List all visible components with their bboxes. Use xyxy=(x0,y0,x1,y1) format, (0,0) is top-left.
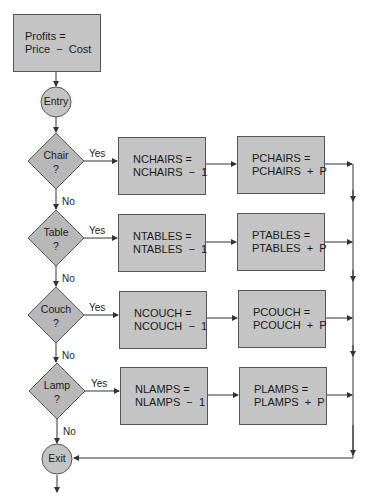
nchairs-line1: NCHAIRS = xyxy=(133,153,205,166)
pcouch-box: PCOUCH = PCOUCH + P xyxy=(238,290,326,348)
nlamps-line2: NLAMPS − 1 xyxy=(135,396,207,409)
plamps-line1: PLAMPS = xyxy=(254,383,326,396)
decision-couch-label: Couch xyxy=(28,302,84,316)
decision-couch-mark: ? xyxy=(28,316,84,330)
no-label-couch: No xyxy=(62,350,75,361)
ntables-line2: NTABLES − 1 xyxy=(133,243,205,256)
no-label-lamp: No xyxy=(63,426,76,437)
profits-line2: Price − Cost xyxy=(25,43,100,56)
pcouch-line2: PCOUCH + P xyxy=(253,319,325,332)
ptables-box: PTABLES = PTABLES + P xyxy=(237,213,325,271)
yes-label-couch: Yes xyxy=(89,302,105,313)
decision-table-label: Table xyxy=(28,225,84,239)
decision-chair-mark: ? xyxy=(28,162,84,176)
decision-lamp-mark: ? xyxy=(29,392,85,406)
decision-table: Table ? xyxy=(28,225,84,253)
no-label-chair: No xyxy=(62,196,75,207)
decision-table-mark: ? xyxy=(28,239,84,253)
ncouch-line1: NCOUCH = xyxy=(134,307,206,320)
decision-chair-label: Chair xyxy=(28,148,84,162)
pcouch-line1: PCOUCH = xyxy=(253,306,325,319)
pchairs-line1: PCHAIRS = xyxy=(252,152,324,165)
nchairs-line2: NCHAIRS − 1 xyxy=(133,166,205,179)
yes-label-lamp: Yes xyxy=(91,378,107,389)
pchairs-box: PCHAIRS = PCHAIRS + P xyxy=(237,136,325,194)
ncouch-line2: NCOUCH − 1 xyxy=(134,320,206,333)
yes-label-table: Yes xyxy=(89,225,105,236)
nlamps-box: NLAMPS = NLAMPS − 1 xyxy=(120,367,208,425)
profits-formula-box: Profits = Price − Cost xyxy=(13,14,101,72)
decision-lamp: Lamp ? xyxy=(29,378,85,406)
pchairs-line2: PCHAIRS + P xyxy=(252,165,324,178)
ncouch-box: NCOUCH = NCOUCH − 1 xyxy=(119,291,207,349)
nchairs-box: NCHAIRS = NCHAIRS − 1 xyxy=(118,137,206,195)
decision-chair: Chair ? xyxy=(28,148,84,176)
ntables-box: NTABLES = NTABLES − 1 xyxy=(118,214,206,272)
profits-line1: Profits = xyxy=(25,30,100,43)
entry-node: Entry xyxy=(41,95,71,107)
ntables-line1: NTABLES = xyxy=(133,230,205,243)
decision-couch: Couch ? xyxy=(28,302,84,330)
ptables-line2: PTABLES + P xyxy=(252,242,324,255)
plamps-box: PLAMPS = PLAMPS + P xyxy=(239,367,327,425)
nlamps-line1: NLAMPS = xyxy=(135,383,207,396)
exit-node: Exit xyxy=(42,452,72,464)
no-label-table: No xyxy=(62,273,75,284)
plamps-line2: PLAMPS + P xyxy=(254,396,326,409)
yes-label-chair: Yes xyxy=(89,148,105,159)
decision-lamp-label: Lamp xyxy=(29,378,85,392)
ptables-line1: PTABLES = xyxy=(252,229,324,242)
